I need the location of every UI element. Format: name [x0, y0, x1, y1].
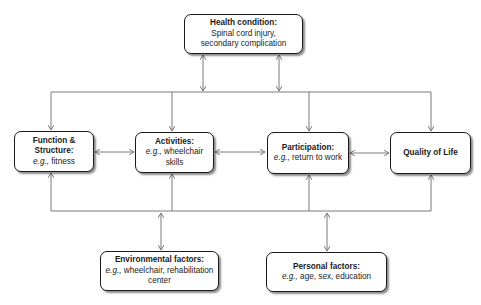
participation-box: Participation: e.g., return to work	[267, 132, 349, 174]
personal-factors-box: Personal factors: e.g., age, sex, educat…	[266, 252, 387, 292]
activities-example: e.g., wheelchair skills	[139, 147, 210, 168]
function-structure-title: Function & Structure:	[18, 136, 90, 157]
activities-title: Activities:	[155, 137, 194, 148]
environmental-factors-example: e.g., wheelchair, rehabilitation center	[104, 266, 215, 287]
environmental-factors-box: Environmental factors: e.g., wheelchair,…	[100, 251, 219, 291]
personal-factors-title: Personal factors:	[293, 262, 360, 273]
function-structure-example: e.g., fitness	[33, 157, 75, 168]
health-condition-title: Health condition:	[210, 18, 277, 29]
health-condition-text: Spinal cord injury, secondary complicati…	[188, 29, 299, 50]
quality-of-life-title: Quality of Life	[403, 148, 458, 159]
health-condition-box: Health condition: Spinal cord injury, se…	[184, 14, 303, 54]
participation-title: Participation:	[282, 143, 334, 154]
quality-of-life-box: Quality of Life	[390, 132, 471, 174]
function-structure-box: Function & Structure: e.g., fitness	[14, 131, 94, 172]
activities-box: Activities: e.g., wheelchair skills	[135, 132, 214, 173]
personal-factors-example: e.g., age, sex, education	[282, 272, 371, 283]
participation-example: e.g., return to work	[274, 153, 342, 164]
environmental-factors-title: Environmental factors:	[115, 255, 204, 266]
